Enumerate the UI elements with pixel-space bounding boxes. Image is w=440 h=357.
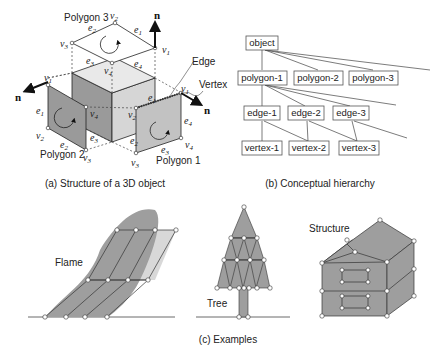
- polygon-2-label: Polygon 2: [40, 149, 85, 160]
- svg-text:v4: v4: [185, 139, 193, 152]
- svg-text:edge-1: edge-1: [247, 107, 277, 118]
- normal-label: n: [15, 91, 21, 103]
- example-flame: Flame: [28, 209, 178, 319]
- svg-text:v3: v3: [131, 157, 139, 170]
- svg-text:e4: e4: [184, 115, 192, 128]
- example-tree: Tree: [196, 205, 290, 319]
- svg-text:vertex-3: vertex-3: [342, 142, 376, 153]
- normal-label: n: [204, 104, 210, 116]
- caption-c: (c) Examples: [199, 334, 257, 345]
- node-edge-2: edge-2: [288, 106, 324, 120]
- node-polygon-3: polygon-3: [349, 71, 398, 85]
- vertex-label: Vertex: [199, 79, 227, 90]
- node-polygon-1: polygon-1: [238, 71, 287, 85]
- caption-b: (b) Conceptual hierarchy: [265, 178, 375, 189]
- svg-text:vertex-2: vertex-2: [292, 142, 326, 153]
- svg-text:v2: v2: [110, 10, 118, 23]
- normal-arrow-icon: [181, 93, 198, 103]
- svg-text:edge-3: edge-3: [336, 107, 366, 118]
- polygon-3-face: [70, 21, 157, 65]
- svg-text:e2: e2: [88, 22, 96, 35]
- panel-a-3d-object: n n n Edge Vertex Polygon 3 Polygon 2 Po…: [15, 9, 227, 189]
- panel-c-examples: Flame Tree: [28, 205, 416, 345]
- node-edge-1: edge-1: [244, 106, 280, 120]
- figure-canvas: n n n Edge Vertex Polygon 3 Polygon 2 Po…: [0, 0, 440, 357]
- svg-text:e1: e1: [36, 105, 44, 118]
- svg-text:object: object: [249, 37, 275, 48]
- node-vertex-1: vertex-1: [242, 141, 282, 155]
- svg-text:v3: v3: [83, 152, 91, 165]
- flame-label: Flame: [55, 257, 83, 268]
- example-structure: Structure: [309, 218, 416, 318]
- svg-text:v2: v2: [36, 130, 44, 143]
- caption-a: (a) Structure of a 3D object: [45, 178, 165, 189]
- edge-label: Edge: [192, 56, 216, 67]
- svg-text:v3: v3: [60, 38, 68, 51]
- svg-text:polygon-2: polygon-2: [297, 72, 339, 83]
- polygon-1-label: Polygon 1: [156, 155, 201, 166]
- svg-text:polygon-3: polygon-3: [352, 72, 394, 83]
- structure-label: Structure: [309, 223, 350, 234]
- normal-label: n: [154, 9, 160, 21]
- svg-text:vertex-1: vertex-1: [245, 142, 279, 153]
- hierarchy-links: [262, 50, 430, 141]
- node-object: object: [246, 36, 278, 50]
- svg-text:v1: v1: [162, 44, 170, 57]
- svg-text:polygon-1: polygon-1: [241, 72, 283, 83]
- node-vertex-2: vertex-2: [289, 141, 329, 155]
- svg-text:e3: e3: [86, 55, 94, 68]
- tree-label: Tree: [207, 298, 228, 309]
- panel-b-hierarchy: object polygon-1 polygon-2 polygon-3 edg…: [238, 36, 430, 189]
- svg-text:edge-2: edge-2: [291, 107, 321, 118]
- polygon-3-label: Polygon 3: [64, 12, 109, 23]
- node-edge-3: edge-3: [333, 106, 369, 120]
- svg-text:e1: e1: [134, 24, 142, 37]
- node-vertex-3: vertex-3: [339, 141, 379, 155]
- node-polygon-2: polygon-2: [294, 71, 343, 85]
- normal-arrow-icon: [28, 82, 48, 90]
